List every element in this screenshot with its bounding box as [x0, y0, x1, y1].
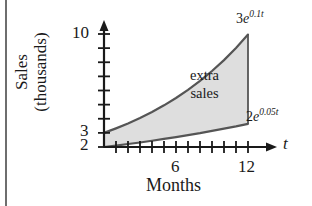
lower-eq-exponent: 0.05t	[259, 107, 278, 117]
x-axis-arrowhead	[266, 143, 277, 152]
extra-sales-line2: sales	[190, 84, 219, 102]
y-axis-arrowhead	[100, 20, 109, 31]
y-axis-title-line2: (thousands)	[31, 12, 50, 132]
lower-curve-equation-label: 2e0.05t	[246, 110, 278, 124]
extra-sales-line1: extra	[190, 66, 219, 84]
y-axis-title: Sales (thousands)	[12, 12, 52, 132]
figure-container: 10 3 2 6 12 t 3e0.1t 2e0.05t extra sales…	[0, 0, 312, 206]
extra-sales-shaded-region	[104, 35, 248, 147]
x-tick-label-6: 6	[171, 158, 180, 175]
y-tick-label-10: 10	[72, 24, 89, 41]
lower-eq-coefficient: 2	[246, 109, 253, 124]
y-axis-title-line1: Sales	[12, 12, 31, 132]
extra-sales-annotation: extra sales	[190, 66, 219, 102]
upper-curve-equation-label: 3e0.1t	[236, 12, 264, 26]
upper-eq-coefficient: 3	[236, 11, 243, 26]
x-tick-label-12: 12	[238, 158, 255, 175]
upper-eq-exponent: 0.1t	[249, 9, 264, 19]
y-tick-label-2: 2	[80, 136, 89, 153]
x-axis-variable-label: t	[283, 135, 288, 152]
x-axis-title: Months	[146, 176, 201, 194]
